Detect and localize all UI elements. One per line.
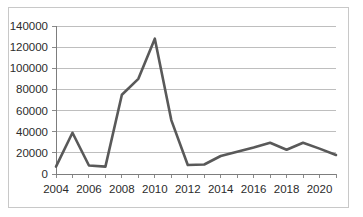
x-tick-label: 2004 bbox=[43, 183, 69, 195]
y-axis-tick-labels: 020000400006000080000100000120000140000 bbox=[10, 20, 48, 180]
x-tick-label: 2010 bbox=[142, 183, 168, 195]
x-axis-tickmarks bbox=[56, 174, 336, 178]
y-tick-label: 0 bbox=[42, 168, 48, 180]
data-series-line bbox=[56, 39, 336, 167]
y-tick-label: 120000 bbox=[10, 41, 48, 53]
x-tick-label: 2014 bbox=[208, 183, 234, 195]
chart-frame: 020000400006000080000100000120000140000 … bbox=[8, 7, 349, 208]
x-tick-label: 2020 bbox=[307, 183, 333, 195]
x-tick-label: 2018 bbox=[274, 183, 300, 195]
y-tick-label: 80000 bbox=[16, 83, 48, 95]
line-chart-plot: 020000400006000080000100000120000140000 … bbox=[9, 8, 348, 207]
x-tick-label: 2006 bbox=[76, 183, 102, 195]
x-tick-label: 2008 bbox=[109, 183, 135, 195]
y-tick-label: 100000 bbox=[10, 62, 48, 74]
gridlines-group bbox=[52, 26, 336, 174]
x-tick-label: 2016 bbox=[241, 183, 267, 195]
y-tick-label: 140000 bbox=[10, 20, 48, 32]
y-tick-label: 20000 bbox=[16, 147, 48, 159]
y-tick-label: 40000 bbox=[16, 126, 48, 138]
x-tick-label: 2012 bbox=[175, 183, 201, 195]
x-axis-tick-labels: 200420062008201020122014201620182020 bbox=[43, 183, 332, 195]
y-tick-label: 60000 bbox=[16, 105, 48, 117]
